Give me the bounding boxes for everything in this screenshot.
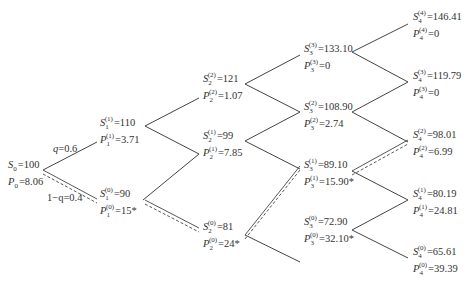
option-price-value: P2(1)=7.85 [203,145,242,162]
tree-node-n4_3: S4(3)=119.79P4(3)=0 [413,68,461,102]
edge-n3_3-n4_3 [352,52,408,82]
edge-n1_0-n2_1 [143,154,199,200]
tree-node-n4_1: S4(1)=80.19P4(1)=24.81 [413,186,458,220]
stock-price-value: S4(3)=119.79 [413,68,461,85]
option-price-value: P2(0)=24* [203,236,240,253]
up-probability-label: q=0.6 [53,143,77,154]
option-price-value: P4(2)=6.99 [413,144,456,161]
tree-node-n4_0: S4(0)=65.61P4(0)=39.39 [413,244,458,278]
tree-node-n2_2: S2(2)=121P2(2)=1.07 [203,71,242,105]
up-prob-value: 0.6 [64,143,77,154]
stock-price-value: S4(4)=146.41 [413,9,462,26]
option-price-value: P4(3)=0 [413,85,461,102]
tree-node-n3_0: S3(0)=72.90P3(0)=32.10* [304,214,354,248]
edge-n1_1-n2_2 [145,98,199,126]
option-price-value: P3(3)=0 [304,58,353,75]
edge-n3_0-n4_1 [352,200,408,230]
option-price-value: P1(0)=15* [100,203,137,220]
option-price-value: P4(4)=0 [413,26,462,43]
stock-price-value: S4(0)=65.61 [413,244,458,261]
option-price-value: P3(2)=2.74 [304,116,353,133]
tree-node-n1_1: S1(1)=110P1(1)=3.71 [100,115,139,149]
stock-price-value: S3(1)=89.10 [304,157,354,174]
edge-n1_1-n2_1 [145,126,199,154]
option-price-value: P2(2)=1.07 [203,88,242,105]
edge-n2_2-n3_2 [245,84,300,112]
edge-n2_1-n3_1 [245,141,300,169]
down-prob-symbol: 1−q [47,192,63,203]
option-price-value: P4(1)=24.81 [413,203,458,220]
tree-node-n2_1: S2(1)=99P2(1)=7.85 [203,128,242,162]
edge-n3_2-n4_3 [352,82,408,112]
stock-price-value: S2(2)=121 [203,71,242,88]
tree-node-n3_3: S3(3)=133.10P3(3)=0 [304,41,353,75]
edge-n2_0-n3_0 [245,235,300,262]
stock-price-value: S1(1)=110 [100,115,139,132]
tree-node-n0: S0=100P0=8.06 [8,157,43,191]
stock-price-value: S0=100 [8,157,43,174]
stock-price-value: S4(2)=98.01 [413,127,456,144]
tree-node-n4_2: S4(2)=98.01P4(2)=6.99 [413,127,456,161]
edge-n3_1-n4_1 [352,171,408,200]
down-probability-label: 1−q=0.4 [47,192,82,203]
tree-node-n2_0: S2(0)=81P2(0)=24* [203,219,240,253]
stock-price-value: S2(0)=81 [203,219,240,236]
tree-node-n3_1: S3(1)=89.10P3(1)=15.90* [304,157,354,191]
option-price-value: P0=8.06 [8,174,43,191]
stock-price-value: S2(1)=99 [203,128,242,145]
edge-n3_0-n4_0 [352,230,408,258]
tree-node-n4_4: S4(4)=146.41P4(4)=0 [413,9,462,43]
option-price-value: P1(1)=3.71 [100,132,139,149]
edge-n3_2-n4_2 [352,112,408,142]
edge-n2_1-n3_2 [245,112,300,141]
stock-price-value: S4(1)=80.19 [413,186,458,203]
stock-price-value: S1(0)=90 [100,186,137,203]
option-price-value: P3(1)=15.90* [304,174,354,191]
tree-node-n3_2: S3(2)=108.90P3(2)=2.74 [304,99,353,133]
option-price-value: P3(0)=32.10* [304,231,354,248]
stock-price-value: S3(2)=108.90 [304,99,353,116]
option-price-value: P4(0)=39.39 [413,261,458,278]
down-prob-value: 0.4 [69,192,82,203]
tree-node-n1_0: S1(0)=90P1(0)=15* [100,186,137,220]
edge-n2_2-n3_3 [245,55,300,84]
stock-price-value: S3(0)=72.90 [304,214,354,231]
stock-price-value: S3(3)=133.10 [304,41,353,58]
edge-n3_3-n4_4 [352,24,408,52]
